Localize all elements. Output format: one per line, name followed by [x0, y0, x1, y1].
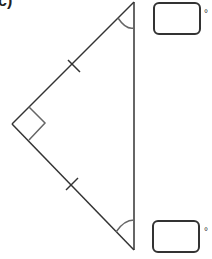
angle-arc-bottom: [116, 220, 134, 232]
side-lower: [12, 124, 134, 250]
answer-box-top[interactable]: [153, 2, 201, 35]
angle-arc-top: [118, 18, 134, 28]
right-angle-marker: [29, 107, 45, 140]
degree-symbol-top: °: [204, 8, 208, 19]
side-upper: [12, 2, 134, 124]
answer-box-bottom[interactable]: [152, 220, 200, 253]
degree-symbol-bottom: °: [204, 226, 208, 237]
tick-lower: [66, 178, 78, 190]
